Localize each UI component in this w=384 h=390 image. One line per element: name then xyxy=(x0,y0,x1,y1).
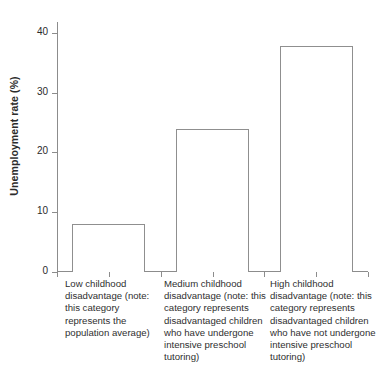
category-label-medium: Medium childhood disadvantage (note: thi… xyxy=(164,278,269,363)
x-axis-center-tick xyxy=(213,272,214,277)
x-axis-boundary-tick xyxy=(264,272,265,277)
y-axis-line xyxy=(57,22,58,272)
bar-2 xyxy=(280,46,353,272)
y-axis-tick: 40 xyxy=(52,33,57,34)
plot-area: 403020100 xyxy=(57,22,368,272)
x-axis-center-tick xyxy=(316,272,317,277)
category-label-high: High childhood disadvantage (note: this … xyxy=(270,278,382,363)
y-axis-tick-label: 30 xyxy=(37,86,48,97)
x-axis-center-tick xyxy=(109,272,110,277)
y-axis-title-text: Unemployment rate (%) xyxy=(8,76,20,195)
category-label-low: Low childhood disadvantage (note: this c… xyxy=(65,278,165,339)
y-axis-tick: 20 xyxy=(52,152,57,153)
x-axis-boundary-tick xyxy=(161,272,162,277)
y-axis-tick-label: 20 xyxy=(37,145,48,156)
y-axis-title: Unemployment rate (%) xyxy=(0,0,28,272)
y-axis-tick: 30 xyxy=(52,93,57,94)
y-axis-tick-label: 40 xyxy=(37,26,48,37)
y-axis-tick-label: 10 xyxy=(37,205,48,216)
bar-0 xyxy=(72,224,145,272)
x-axis-category-labels: Low childhood disadvantage (note: this c… xyxy=(57,278,377,390)
x-axis-boundary-tick xyxy=(57,272,58,277)
y-axis-tick: 10 xyxy=(52,212,57,213)
bar-chart: Unemployment rate (%) 403020100 Low chil… xyxy=(0,0,384,390)
y-axis-tick-label: 0 xyxy=(42,265,48,276)
x-axis-boundary-tick xyxy=(368,272,369,277)
bar-1 xyxy=(176,129,249,272)
